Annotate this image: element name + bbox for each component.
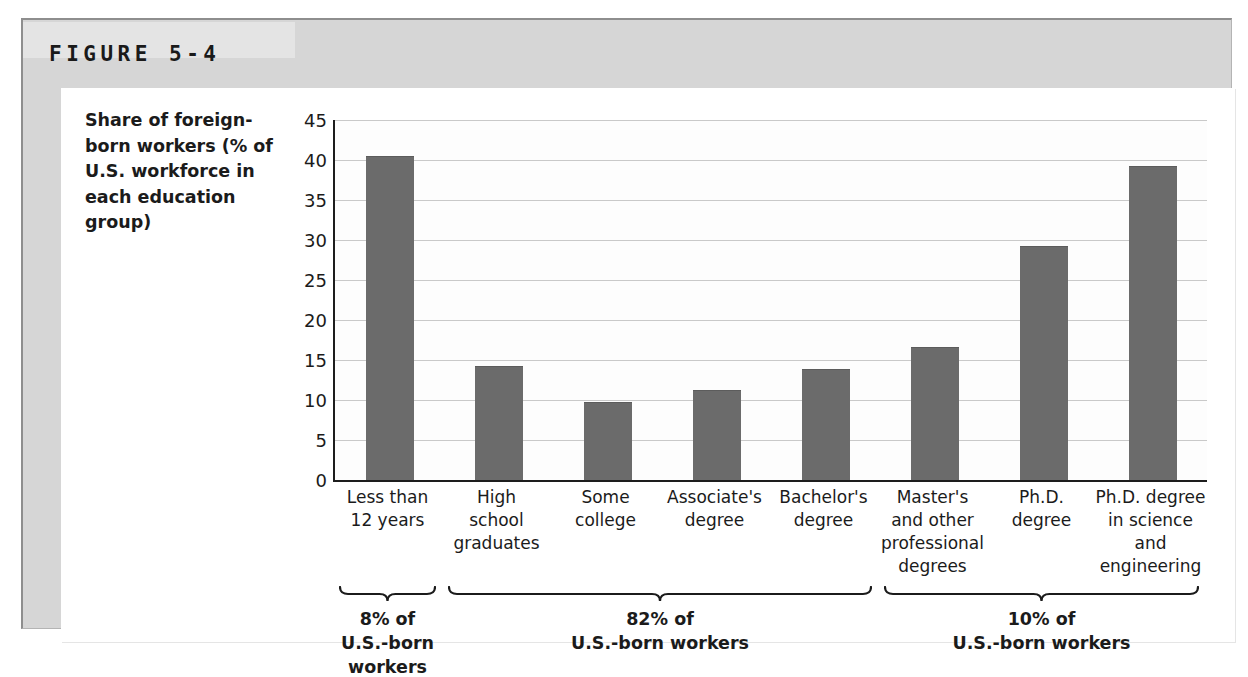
y-tick-label: 30	[293, 230, 327, 251]
gridline	[335, 200, 1207, 201]
curly-brace-icon	[448, 586, 872, 604]
y-tick-label: 35	[293, 190, 327, 211]
bar	[584, 402, 632, 480]
curly-brace-icon	[339, 586, 436, 604]
y-tick-label: 5	[293, 430, 327, 451]
gridline	[335, 360, 1207, 361]
bar	[693, 390, 741, 480]
bar-chart: 051015202530354045 Less than 12 yearsHig…	[61, 88, 1235, 642]
y-tick-label: 10	[293, 390, 327, 411]
bracket-10-percent-caption: 10% of U.S.-born workers	[884, 607, 1199, 655]
y-tick-label: 40	[293, 150, 327, 171]
bracket-82-percent-caption: 82% of U.S.-born workers	[448, 607, 872, 655]
y-tick-label: 25	[293, 270, 327, 291]
curly-brace-icon	[884, 586, 1199, 604]
bar	[366, 156, 414, 480]
y-tick-label: 0	[293, 470, 327, 491]
bracket-82-percent	[448, 586, 872, 604]
figure-panel: FIGURE 5-4 Share of foreign- born worker…	[21, 18, 1232, 629]
y-tick-label: 20	[293, 310, 327, 331]
figure-number-label: FIGURE 5-4	[49, 42, 220, 66]
bracket-8-percent	[339, 586, 436, 604]
bar	[1020, 246, 1068, 480]
y-tick-label: 15	[293, 350, 327, 371]
gridline	[335, 160, 1207, 161]
x-category-label: Ph.D. degree in science and engineering	[1086, 486, 1215, 578]
figure-card: Share of foreign- born workers (% of U.S…	[61, 88, 1235, 642]
bar	[802, 369, 850, 480]
bar	[911, 347, 959, 480]
y-axis-tick-labels: 051015202530354045	[289, 120, 327, 480]
bar	[475, 366, 523, 480]
plot-area	[333, 120, 1207, 482]
gridline	[335, 120, 1207, 121]
gridline	[335, 240, 1207, 241]
bracket-10-percent	[884, 586, 1199, 604]
y-tick-label: 45	[293, 110, 327, 131]
bar	[1129, 166, 1177, 480]
gridline	[335, 400, 1207, 401]
gridline	[335, 280, 1207, 281]
bracket-8-percent-caption: 8% of U.S.-born workers	[339, 607, 436, 677]
gridline	[335, 440, 1207, 441]
gridline	[335, 320, 1207, 321]
